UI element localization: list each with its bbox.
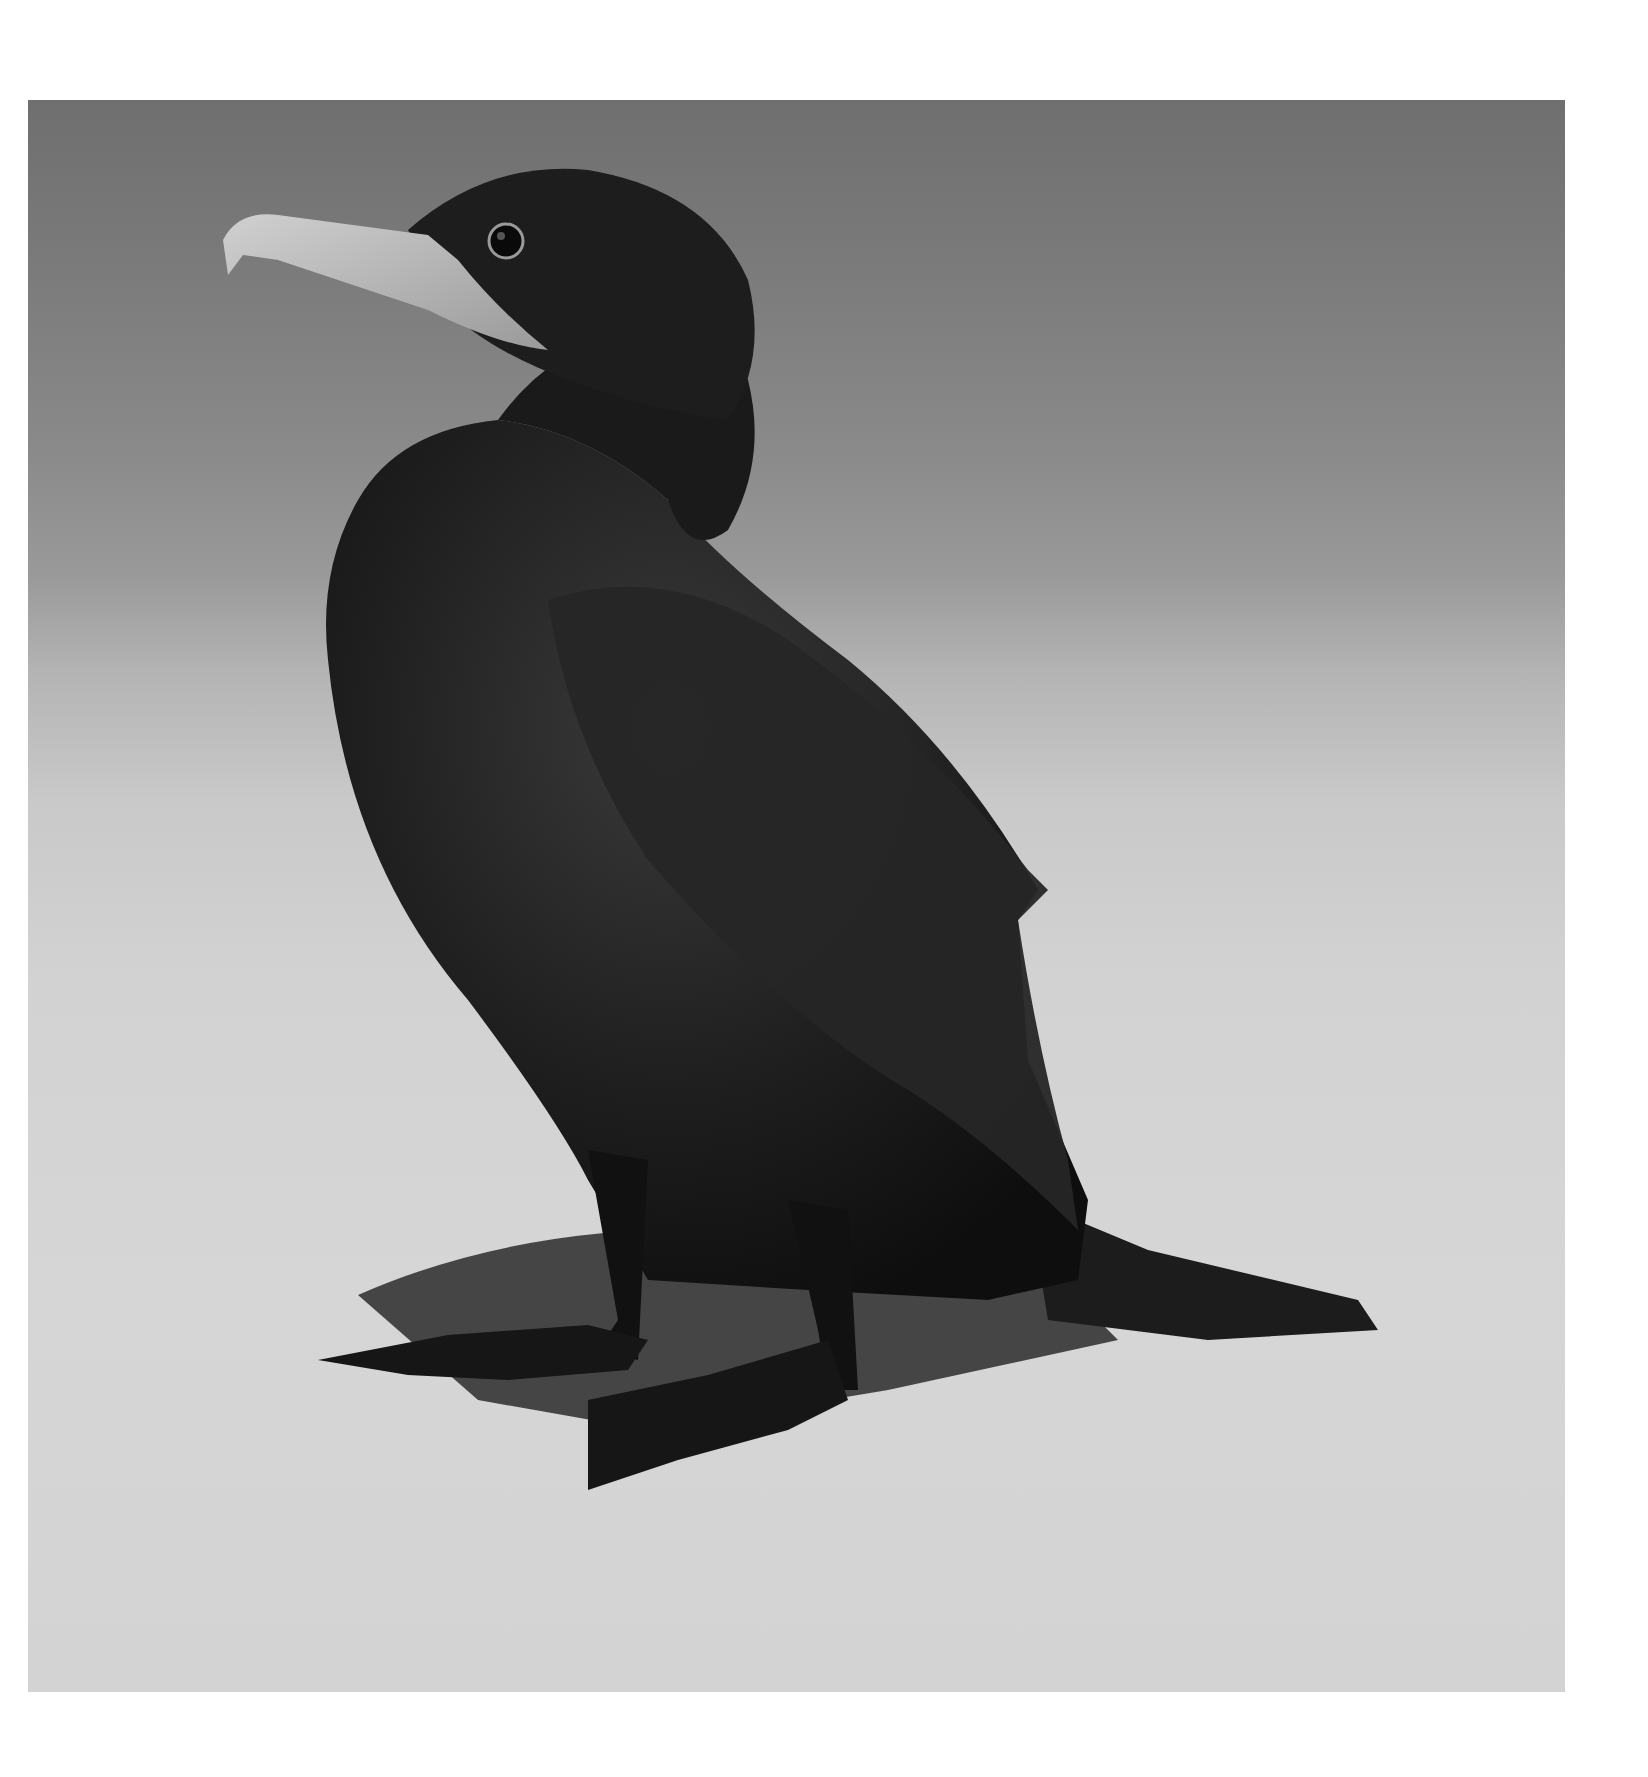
cormorant-photo [28,100,1565,1692]
eye [489,224,523,258]
foot-left [318,1325,648,1380]
cormorant-illustration [28,100,1565,1692]
